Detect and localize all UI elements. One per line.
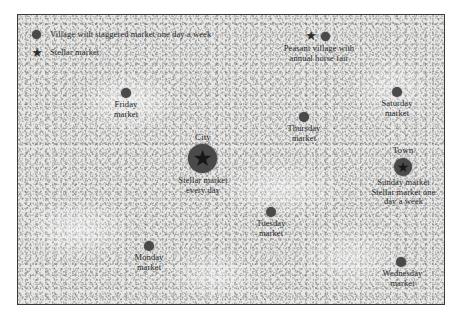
map-frame: Village with staggered market one day a …	[17, 14, 445, 305]
thursday-market-caption: Thursday market	[268, 124, 340, 143]
town-star-glyph: ★	[397, 160, 410, 174]
thursday-market-circle-icon	[299, 112, 309, 122]
city-name: City	[173, 133, 233, 143]
saturday-market-caption: Saturday market	[361, 99, 433, 118]
legend-item-village-label: Village with staggered market one day a …	[50, 29, 211, 39]
city-star-in-circle-icon: ★	[188, 144, 217, 173]
map-content: Village with staggered market one day a …	[18, 15, 444, 304]
town-caption: Sunday market Stellar market one day a w…	[353, 178, 445, 207]
peasant-village-caption: Peasant village with annual horse fair	[267, 44, 371, 63]
town-name: Town	[373, 146, 433, 156]
town-star-in-circle-icon: ★	[394, 158, 412, 176]
wednesday-market-circle-icon	[396, 257, 406, 267]
legend-circle-icon	[32, 30, 41, 39]
city-star-glyph: ★	[192, 147, 213, 170]
friday-market-caption: Friday market	[90, 100, 162, 119]
peasant-village-star-icon: ★	[304, 29, 318, 42]
friday-market-circle-icon	[121, 88, 131, 98]
legend-star-icon: ★	[30, 46, 44, 59]
city-caption: Stellar market every day	[162, 176, 244, 195]
monday-market-caption: Monday market	[113, 253, 185, 272]
monday-market-circle-icon	[144, 241, 154, 251]
saturday-market-circle-icon	[392, 87, 402, 97]
tuesday-market-circle-icon	[266, 207, 276, 217]
peasant-village-circle-icon	[321, 32, 330, 41]
legend-item-stellar-label: Stellar market	[50, 47, 99, 57]
wednesday-market-caption: Wednesday market	[365, 269, 440, 288]
tuesday-market-caption: Tuesday market	[235, 219, 307, 238]
